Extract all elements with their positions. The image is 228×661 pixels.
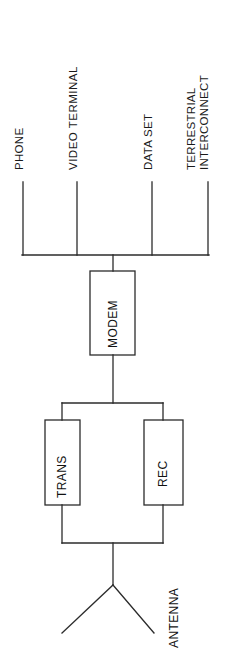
trans-label: TRANS xyxy=(56,455,68,498)
label-video-terminal: VIDEO TERMINAL xyxy=(68,66,80,170)
label-phone: PHONE xyxy=(14,128,26,170)
label-interconnect: INTERCONNECT xyxy=(199,75,211,170)
label-terrestrial: TERRESTRIAL xyxy=(186,87,198,170)
antenna-label: ANTENNA xyxy=(168,588,180,648)
antenna-arm-right xyxy=(113,585,154,633)
modem-label: MODEM xyxy=(107,300,119,348)
block-diagram: PHONE VIDEO TERMINAL DATA SET TERRESTRIA… xyxy=(0,0,228,661)
antenna-arm-left xyxy=(62,585,113,633)
label-data-set: DATA SET xyxy=(143,114,155,170)
rec-label: REC xyxy=(157,460,169,487)
